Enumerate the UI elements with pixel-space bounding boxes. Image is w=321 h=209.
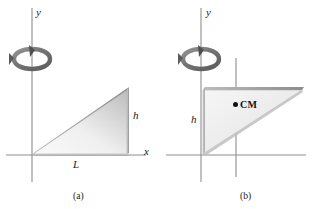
- panel-b-height-label: h: [191, 114, 197, 125]
- panel-b-caption: (b): [240, 191, 251, 201]
- plate-bottom-edge: [33, 154, 129, 156]
- rotation-arrow-icon: [178, 45, 219, 69]
- panel-a-graphics: [0, 0, 161, 209]
- panel-b: y h CM (b): [160, 0, 321, 209]
- panel-b-y-axis-label: y: [206, 7, 211, 18]
- plate-left-edge: [203, 87, 205, 154]
- panel-a-caption: (a): [73, 191, 84, 201]
- physics-figure: y x L h (a): [0, 0, 321, 209]
- panel-a-height-label: h: [133, 110, 139, 121]
- center-of-mass-dot: [233, 102, 238, 107]
- panel-a-base-label: L: [73, 159, 79, 170]
- panel-a: y x L h (a): [0, 0, 161, 209]
- panel-a-x-axis-label: x: [144, 146, 149, 157]
- plate-top-edge: [203, 87, 304, 90]
- center-of-mass-label: CM: [240, 99, 257, 110]
- panel-a-y-axis-label: y: [36, 7, 41, 18]
- rotation-arrow-icon: [9, 45, 50, 69]
- plate-right-edge: [127, 87, 129, 154]
